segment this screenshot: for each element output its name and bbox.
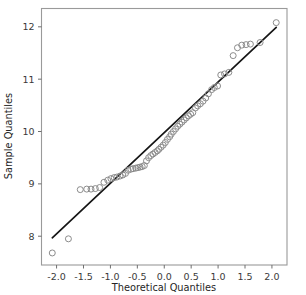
x-tick-label: 0.5 <box>184 271 199 282</box>
y-axis-title: Sample Quantiles <box>3 93 14 179</box>
y-tick-label: 8 <box>28 231 34 242</box>
x-tick-label: 1.0 <box>211 271 226 282</box>
x-tick-label: 0.0 <box>157 271 172 282</box>
x-tick-label: -0.5 <box>128 271 147 282</box>
y-tick-label: 10 <box>22 126 34 137</box>
y-tick-label: 12 <box>22 21 34 32</box>
qq-plot-figure: -2.0-1.5-1.0-0.50.00.51.01.52.0 89101112… <box>0 0 306 295</box>
x-axis-title: Theoretical Quantiles <box>111 282 216 293</box>
x-tick-label: -1.5 <box>74 271 93 282</box>
y-tick-label: 9 <box>28 178 34 189</box>
y-tick-label: 11 <box>22 74 34 85</box>
x-tick-label: 1.5 <box>237 271 252 282</box>
x-tick-label: -1.0 <box>101 271 120 282</box>
x-tick-label: -2.0 <box>47 271 66 282</box>
figure-background <box>0 0 306 295</box>
x-tick-label: 2.0 <box>264 271 279 282</box>
qq-plot-canvas: -2.0-1.5-1.0-0.50.00.51.01.52.0 89101112… <box>0 0 306 295</box>
